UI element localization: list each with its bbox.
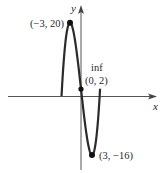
inflection-annotation: inf xyxy=(91,62,103,73)
inflection-label: (0, 2) xyxy=(85,75,108,87)
local-max-point xyxy=(67,20,73,26)
local-max-label: (−3, 20) xyxy=(30,18,64,30)
cubic-function-graph: x y (−3, 20) inf (0, 2) (3, −16) xyxy=(0,0,162,173)
local-min-label: (3, −16) xyxy=(99,150,133,162)
local-min-point xyxy=(89,152,95,158)
x-axis-label: x xyxy=(152,100,158,112)
y-axis-label: y xyxy=(70,2,76,14)
inflection-point xyxy=(78,86,83,91)
